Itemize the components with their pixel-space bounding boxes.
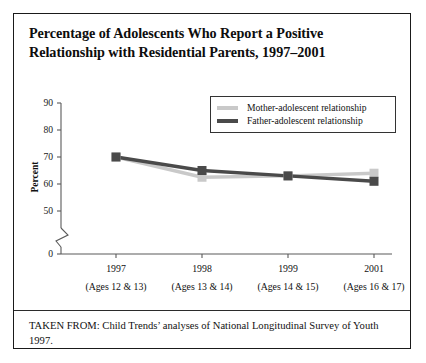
legend-item-mother: Mother-adolescent relationship: [217, 101, 389, 114]
y-tick-label-70: 70: [27, 151, 53, 162]
caption-divider: [14, 310, 410, 311]
figure-title: Percentage of Adolescents Who Report a P…: [29, 24, 389, 61]
legend-swatch-mother: [217, 106, 238, 110]
chart-legend: Mother-adolescent relationship Father-ad…: [210, 96, 396, 133]
y-tick-label-90: 90: [27, 97, 53, 108]
x-axis-group-1998: 1998(Ages 13 & 14): [156, 263, 248, 292]
figure-caption: TAKEN FROM: Child Trends’ analyses of Na…: [29, 318, 395, 348]
x-tick-ages: (Ages 13 & 14): [156, 281, 248, 292]
y-tick-label-60: 60: [27, 178, 53, 189]
x-axis-group-1997: 1997(Ages 12 & 13): [70, 263, 162, 292]
figure-container: Percentage of Adolescents Who Report a P…: [13, 13, 411, 349]
legend-label-mother: Mother-adolescent relationship: [247, 102, 366, 113]
y-tick-label-0: 0: [27, 248, 53, 259]
chart-plot-area: Percent Mother-adolescent relationship F…: [14, 76, 410, 291]
y-tick-label-50: 50: [27, 205, 53, 216]
legend-item-father: Father-adolescent relationship: [217, 114, 389, 127]
x-tick-year: 1997: [70, 263, 162, 274]
x-tick-ages: (Ages 14 & 15): [242, 281, 334, 292]
x-axis-group-1999: 1999(Ages 14 & 15): [242, 263, 334, 292]
legend-swatch-father: [217, 119, 238, 123]
x-tick-year: 1999: [242, 263, 334, 274]
x-tick-ages: (Ages 16 & 17): [328, 281, 420, 292]
y-tick-label-80: 80: [27, 124, 53, 135]
legend-label-father: Father-adolescent relationship: [247, 115, 363, 126]
x-tick-year: 1998: [156, 263, 248, 274]
x-tick-ages: (Ages 12 & 13): [70, 281, 162, 292]
x-tick-year: 2001: [328, 263, 420, 274]
x-axis-group-2001: 2001(Ages 16 & 17): [328, 263, 420, 292]
